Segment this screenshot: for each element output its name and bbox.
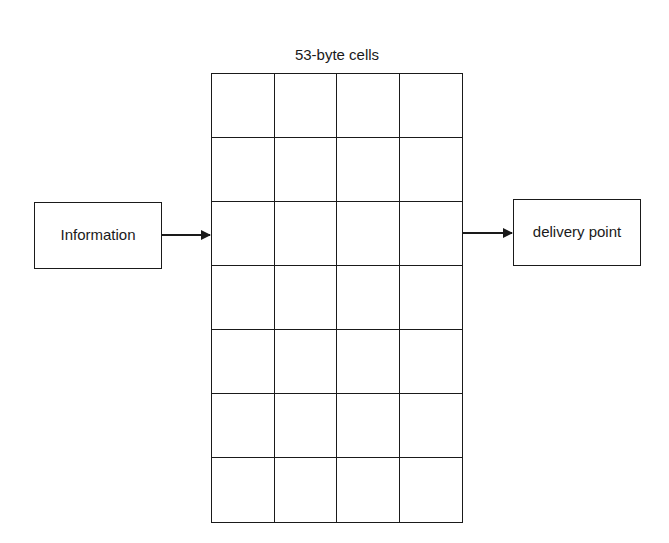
connector-arrows [0,0,669,543]
